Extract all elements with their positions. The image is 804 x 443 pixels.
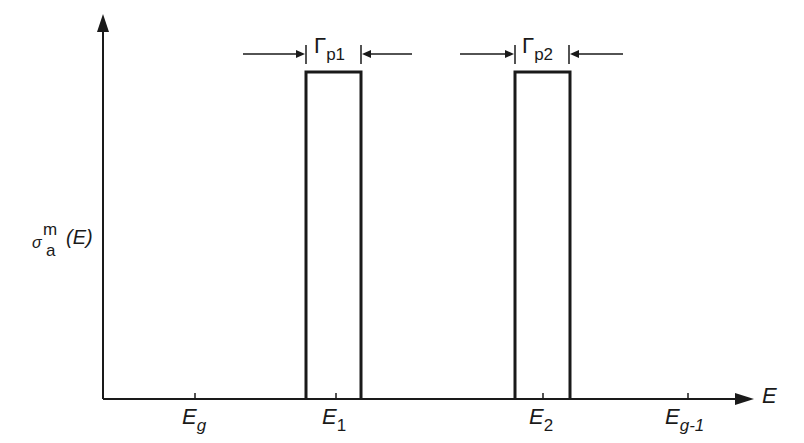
- gamma1-subscript: p1: [326, 45, 345, 64]
- tick-eg-sub: g: [197, 416, 206, 435]
- resonance-bar-2: [515, 72, 570, 399]
- gamma2-left-arrowhead-icon: [505, 50, 514, 58]
- tick-label-e2: E2: [529, 404, 553, 430]
- y-axis-arrow-icon: [97, 14, 109, 32]
- tick-e1-base: E: [322, 404, 337, 429]
- x-axis-arrow-icon: [735, 393, 754, 405]
- y-sigma: σ: [32, 234, 42, 252]
- tick-e1-sub: 1: [337, 416, 346, 435]
- diagram-canvas: [0, 0, 804, 443]
- gamma2-subscript: p2: [534, 45, 553, 64]
- tick-eg1-base: E: [665, 404, 680, 429]
- tick-eg-base: E: [182, 404, 197, 429]
- tick-e2-base: E: [529, 404, 544, 429]
- y-subscript: a: [46, 241, 55, 261]
- tick-eg1-sub: g-1: [680, 416, 705, 435]
- gamma1-left-arrowhead-icon: [296, 50, 305, 58]
- gamma2-symbol: Γ: [522, 33, 534, 58]
- tick-label-eg1: Eg-1: [665, 404, 704, 430]
- gamma-p1-label: Γp1: [314, 33, 345, 59]
- x-axis-label: E: [762, 383, 777, 409]
- tick-e2-sub: 2: [544, 416, 553, 435]
- tick-label-eg: Eg: [182, 404, 206, 430]
- resonance-bar-1: [306, 72, 361, 399]
- gamma1-symbol: Γ: [314, 33, 326, 58]
- tick-label-e1: E1: [322, 404, 346, 430]
- gamma-p2-label: Γp2: [522, 33, 553, 59]
- y-argument: (E): [66, 226, 93, 249]
- y-superscript: m: [43, 220, 57, 240]
- y-axis-label: σ m a (E): [32, 222, 102, 272]
